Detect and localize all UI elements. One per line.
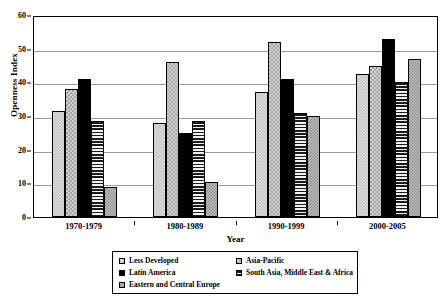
legend-swatch [119, 270, 125, 276]
bar [205, 182, 218, 217]
y-tick-label: 0 [22, 214, 26, 222]
legend-swatch [119, 282, 125, 288]
bar [192, 121, 205, 217]
bar [65, 89, 78, 217]
x-axis: 1970-19791980-19891990-19992000-2005 [33, 221, 438, 235]
legend-label: Less Developed [129, 257, 178, 265]
legend: Less DevelopedAsia-PacificLatin AmericaS… [112, 251, 358, 294]
y-tick-label: 50 [18, 46, 26, 54]
legend-label: Latin America [129, 269, 175, 277]
y-tick-mark [27, 218, 31, 219]
y-tick-label: 60 [18, 12, 26, 20]
bar [179, 133, 192, 217]
bar [255, 92, 268, 217]
bar [268, 42, 281, 217]
bar [281, 79, 294, 217]
y-tick-label: 40 [18, 79, 26, 87]
x-tick-mark [236, 221, 237, 225]
bar [307, 116, 320, 217]
bar [91, 121, 104, 217]
x-tick-label: 2000-2005 [369, 221, 406, 231]
bar-group [34, 17, 135, 217]
legend-label: Asia-Pacific [246, 257, 284, 265]
bar [356, 74, 369, 217]
x-tick-label: 1990-1999 [268, 221, 305, 231]
bar [104, 187, 117, 217]
legend-item[interactable]: Latin America [119, 269, 236, 277]
x-tick-label: 1980-1989 [166, 221, 203, 231]
bar [369, 66, 382, 218]
legend-item[interactable]: Less Developed [119, 257, 236, 265]
legend-label: Eastern and Central Europe [129, 281, 220, 289]
y-tick-mark [27, 49, 31, 50]
legend-item[interactable]: South Asia, Middle East & Africa [236, 269, 353, 277]
legend-swatch [236, 258, 242, 264]
y-tick-mark [27, 117, 31, 118]
chart-figure: Openness Index 0102030405060 1970-197919… [0, 0, 448, 306]
x-axis-title: Year [33, 234, 438, 244]
y-tick-mark [27, 150, 31, 151]
bar [408, 59, 421, 217]
bar [166, 62, 179, 217]
y-tick-label: 20 [18, 147, 26, 155]
x-tick-mark [134, 221, 135, 225]
legend-item[interactable]: Asia-Pacific [236, 257, 353, 265]
bar-group [338, 17, 439, 217]
y-tick-mark [27, 184, 31, 185]
plot-area [33, 16, 438, 218]
bar-group [135, 17, 236, 217]
y-tick-label: 30 [18, 113, 26, 121]
bar [294, 113, 307, 217]
legend-label: South Asia, Middle East & Africa [246, 269, 353, 277]
bar [382, 39, 395, 217]
legend-swatch [119, 258, 125, 264]
x-tick-mark [337, 221, 338, 225]
x-tick-label: 1970-1979 [65, 221, 102, 231]
y-tick-mark [27, 16, 31, 17]
bar [153, 123, 166, 217]
bar [78, 79, 91, 217]
y-tick-mark [27, 83, 31, 84]
y-tick-label: 10 [18, 180, 26, 188]
legend-grid: Less DevelopedAsia-PacificLatin AmericaS… [119, 255, 351, 291]
y-axis: 0102030405060 [0, 16, 31, 218]
legend-swatch [236, 270, 242, 276]
bar-group [237, 17, 338, 217]
legend-item[interactable]: Eastern and Central Europe [119, 281, 236, 289]
bars-layer [34, 17, 437, 217]
bar [395, 82, 408, 217]
bar [52, 111, 65, 217]
